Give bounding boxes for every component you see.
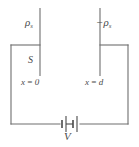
capacitor-plates — [40, 8, 100, 76]
capacitor-circuit-figure: ρs −ρs S x = 0 x = d V — [0, 0, 139, 147]
label-charge-density-right: −ρs — [96, 17, 111, 28]
label-voltage: V — [64, 131, 71, 142]
label-charge-density-left: ρs — [25, 17, 33, 28]
label-position-x-zero: x = 0 — [21, 78, 39, 87]
label-position-x-d: x = d — [85, 78, 103, 87]
label-surface-s: S — [28, 55, 33, 65]
circuit-drawing — [0, 0, 139, 147]
